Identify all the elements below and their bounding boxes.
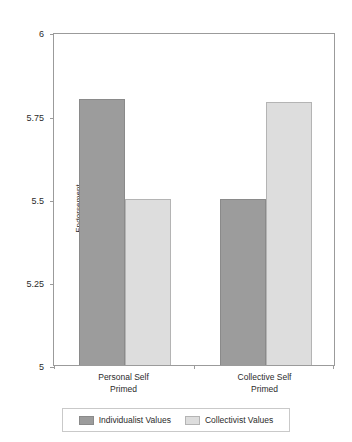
- legend-swatch: [79, 416, 94, 425]
- x-axis-label-line: Personal Self: [53, 372, 194, 384]
- legend-label: Individualist Values: [99, 415, 171, 425]
- bar-chart: Endorsement 65.755.55.255 Personal SelfP…: [0, 0, 352, 442]
- y-axis-tick: 5.75: [26, 108, 54, 126]
- legend: Individualist ValuesCollectivist Values: [62, 408, 290, 432]
- bar: [220, 199, 266, 366]
- y-axis-tick-label: 5.5: [31, 197, 50, 206]
- legend-item: Individualist Values: [79, 415, 171, 425]
- y-axis-tick-label: 6: [39, 30, 50, 39]
- x-axis-label: Personal SelfPrimed: [53, 372, 194, 402]
- x-axis-label-line: Collective Self: [194, 372, 335, 384]
- x-axis-label: Collective SelfPrimed: [194, 372, 335, 402]
- x-axis-labels: Personal SelfPrimedCollective SelfPrimed: [53, 372, 335, 402]
- y-axis-tick-label: 5: [39, 363, 50, 372]
- plot-area: Endorsement 65.755.55.255: [53, 33, 335, 366]
- legend-item: Collectivist Values: [185, 415, 273, 425]
- y-axis-tick: 5.5: [31, 192, 54, 210]
- bar: [79, 99, 125, 365]
- y-axis-tick-label: 5.25: [26, 280, 50, 289]
- y-axis-tick: 5.25: [26, 275, 54, 293]
- bar: [266, 102, 312, 365]
- x-axis-label-line: Primed: [53, 384, 194, 396]
- y-axis-tick: 5: [39, 358, 54, 376]
- x-axis-label-line: Primed: [194, 384, 335, 396]
- legend-label: Collectivist Values: [205, 415, 273, 425]
- legend-swatch: [185, 416, 200, 425]
- y-axis-tick: 6: [39, 25, 54, 43]
- bars-layer: [54, 34, 334, 365]
- x-axis-mid-tick: [194, 365, 195, 369]
- x-axis-right-tick: [333, 365, 334, 369]
- x-axis-left-tick: [54, 365, 55, 369]
- bar: [125, 199, 171, 366]
- y-axis-tick-label: 5.75: [26, 114, 50, 123]
